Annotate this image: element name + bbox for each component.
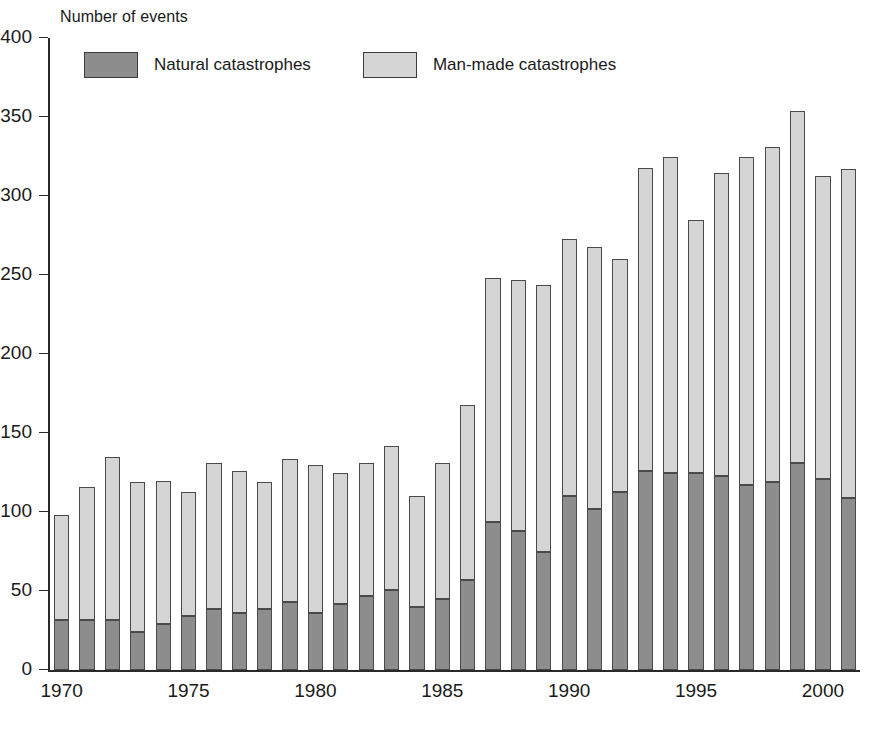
bar-segment-manmade bbox=[105, 457, 120, 620]
x-tick-label-2000: 2000 bbox=[802, 680, 844, 702]
bar-segment-natural bbox=[105, 620, 120, 671]
y-tick-label: 150 bbox=[0, 421, 32, 443]
x-tick-label-1985: 1985 bbox=[421, 680, 463, 702]
bar-segment-natural bbox=[739, 485, 754, 670]
bar-segment-natural bbox=[485, 522, 500, 671]
bar-1974[interactable] bbox=[156, 481, 171, 671]
y-tick-250: 250 bbox=[39, 274, 48, 276]
bar-2000[interactable] bbox=[815, 176, 830, 671]
bar-segment-manmade bbox=[130, 482, 145, 632]
y-tick-150: 150 bbox=[39, 432, 48, 434]
bar-1973[interactable] bbox=[130, 482, 145, 670]
bar-segment-natural bbox=[714, 476, 729, 670]
y-tick-label: 100 bbox=[0, 500, 32, 522]
bar-segment-manmade bbox=[308, 465, 323, 614]
bar-segment-manmade bbox=[435, 463, 450, 599]
bar-1978[interactable] bbox=[257, 482, 272, 670]
bar-segment-natural bbox=[181, 616, 196, 670]
bar-1997[interactable] bbox=[739, 157, 754, 671]
bar-1985[interactable] bbox=[435, 463, 450, 670]
bar-1971[interactable] bbox=[79, 487, 94, 670]
bar-segment-manmade bbox=[612, 259, 627, 491]
bar-segment-natural bbox=[130, 632, 145, 670]
bar-segment-natural bbox=[815, 479, 830, 670]
bar-segment-natural bbox=[765, 482, 780, 670]
bar-segment-manmade bbox=[460, 405, 475, 580]
bar-1980[interactable] bbox=[308, 465, 323, 670]
bar-segment-natural bbox=[841, 498, 856, 670]
bar-1970[interactable] bbox=[54, 515, 69, 670]
bar-1972[interactable] bbox=[105, 457, 120, 670]
bar-1999[interactable] bbox=[790, 111, 805, 670]
y-tick-350: 350 bbox=[39, 116, 48, 118]
x-axis-line bbox=[48, 670, 860, 672]
y-tick-label: 50 bbox=[11, 579, 32, 601]
bar-segment-natural bbox=[435, 599, 450, 670]
bar-segment-natural bbox=[79, 620, 94, 671]
bar-1988[interactable] bbox=[511, 280, 526, 670]
bar-2001[interactable] bbox=[841, 169, 856, 670]
y-tick-300: 300 bbox=[39, 195, 48, 197]
y-tick-200: 200 bbox=[39, 353, 48, 355]
bar-segment-natural bbox=[54, 620, 69, 671]
y-tick-label: 250 bbox=[0, 263, 32, 285]
bar-segment-manmade bbox=[409, 496, 424, 607]
bar-segment-natural bbox=[511, 531, 526, 670]
x-tick-label-1980: 1980 bbox=[294, 680, 336, 702]
bar-segment-manmade bbox=[485, 278, 500, 521]
bar-1984[interactable] bbox=[409, 496, 424, 670]
bar-1975[interactable] bbox=[181, 492, 196, 671]
y-tick-400: 400 bbox=[39, 37, 48, 39]
bar-segment-natural bbox=[536, 552, 551, 671]
y-axis-title: Number of events bbox=[60, 8, 188, 26]
bar-segment-natural bbox=[257, 609, 272, 671]
bar-1987[interactable] bbox=[485, 278, 500, 670]
bar-1986[interactable] bbox=[460, 405, 475, 670]
y-tick-label: 200 bbox=[0, 342, 32, 364]
y-tick-label: 300 bbox=[0, 184, 32, 206]
bar-segment-natural bbox=[156, 624, 171, 670]
bar-segment-natural bbox=[384, 590, 399, 671]
x-tick-label-1995: 1995 bbox=[675, 680, 717, 702]
bar-segment-manmade bbox=[257, 482, 272, 608]
y-tick-label: 0 bbox=[21, 658, 32, 680]
bar-segment-natural bbox=[663, 473, 678, 671]
bar-1996[interactable] bbox=[714, 173, 729, 671]
bar-1994[interactable] bbox=[663, 157, 678, 671]
bar-1989[interactable] bbox=[536, 285, 551, 671]
y-tick-100: 100 bbox=[39, 511, 48, 513]
bar-1976[interactable] bbox=[206, 463, 221, 670]
bar-1977[interactable] bbox=[232, 471, 247, 670]
x-tick-label-1990: 1990 bbox=[548, 680, 590, 702]
bar-1992[interactable] bbox=[612, 259, 627, 670]
bar-series-group bbox=[48, 38, 860, 670]
y-tick-label: 350 bbox=[0, 105, 32, 127]
bar-1981[interactable] bbox=[333, 473, 348, 671]
bar-1991[interactable] bbox=[587, 247, 602, 670]
bar-1979[interactable] bbox=[282, 458, 297, 670]
bar-segment-natural bbox=[282, 602, 297, 670]
bar-1982[interactable] bbox=[359, 463, 374, 670]
bar-segment-manmade bbox=[282, 459, 297, 603]
bar-segment-natural bbox=[359, 596, 374, 670]
bar-segment-manmade bbox=[536, 285, 551, 552]
x-tick-label-1975: 1975 bbox=[167, 680, 209, 702]
y-tick-0: 0 bbox=[39, 669, 48, 671]
bar-segment-natural bbox=[460, 580, 475, 670]
chart-container: Number of events Natural catastrophes Ma… bbox=[0, 0, 877, 734]
bar-segment-manmade bbox=[638, 168, 653, 471]
bar-1993[interactable] bbox=[638, 168, 653, 670]
bar-segment-manmade bbox=[181, 492, 196, 617]
bar-1983[interactable] bbox=[384, 446, 399, 670]
bar-segment-manmade bbox=[54, 515, 69, 619]
bar-1998[interactable] bbox=[765, 147, 780, 670]
bar-segment-manmade bbox=[156, 481, 171, 625]
bar-1990[interactable] bbox=[562, 239, 577, 670]
bar-segment-manmade bbox=[663, 157, 678, 473]
bar-segment-manmade bbox=[206, 463, 221, 608]
bar-1995[interactable] bbox=[688, 220, 703, 670]
bar-segment-natural bbox=[562, 496, 577, 670]
bar-segment-manmade bbox=[359, 463, 374, 596]
bar-segment-manmade bbox=[384, 446, 399, 590]
bar-segment-natural bbox=[333, 604, 348, 670]
